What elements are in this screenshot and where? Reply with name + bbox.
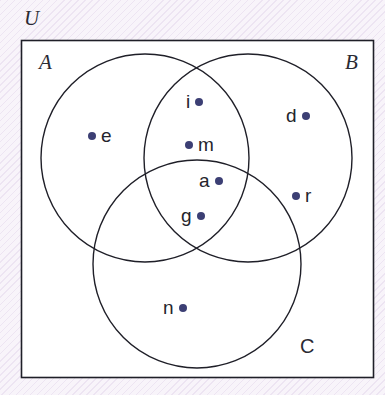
point-dot-icon (88, 132, 96, 140)
element-label: a (199, 171, 210, 190)
label-layer: U A B C e i m a g d r (0, 0, 385, 395)
point-dot-icon (292, 192, 300, 200)
element-label: i (186, 92, 190, 111)
element-point-d: d (286, 106, 310, 125)
element-label: r (305, 186, 311, 205)
venn-diagram-figure: U A B C e i m a g d r (0, 0, 385, 395)
element-point-r: r (292, 186, 311, 205)
element-point-i: i (186, 92, 203, 111)
element-label: e (101, 126, 112, 145)
element-point-m: m (185, 135, 214, 154)
set-label-a: A (39, 52, 52, 73)
set-label-c: C (300, 336, 314, 356)
universe-label: U (24, 8, 39, 29)
point-dot-icon (179, 304, 187, 312)
point-dot-icon (195, 98, 203, 106)
element-point-e: e (88, 126, 112, 145)
element-label: n (163, 298, 174, 317)
element-label: d (286, 106, 297, 125)
element-point-g: g (181, 206, 205, 225)
element-label: m (198, 135, 214, 154)
element-point-n: n (163, 298, 187, 317)
set-label-b: B (345, 52, 358, 73)
point-dot-icon (215, 177, 223, 185)
point-dot-icon (302, 112, 310, 120)
element-label: g (181, 206, 192, 225)
point-dot-icon (197, 212, 205, 220)
point-dot-icon (185, 141, 193, 149)
element-point-a: a (199, 171, 223, 190)
